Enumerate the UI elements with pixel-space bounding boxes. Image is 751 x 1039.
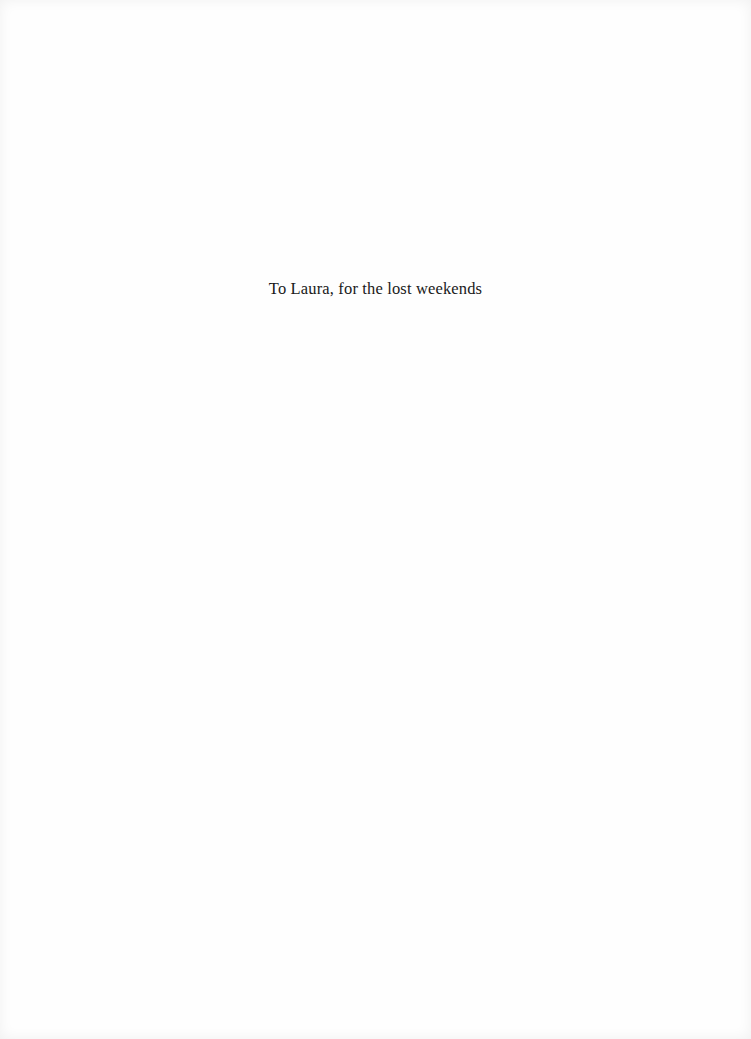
dedication-text: To Laura, for the lost weekends [0,279,751,299]
document-page: To Laura, for the lost weekends [0,0,751,1039]
